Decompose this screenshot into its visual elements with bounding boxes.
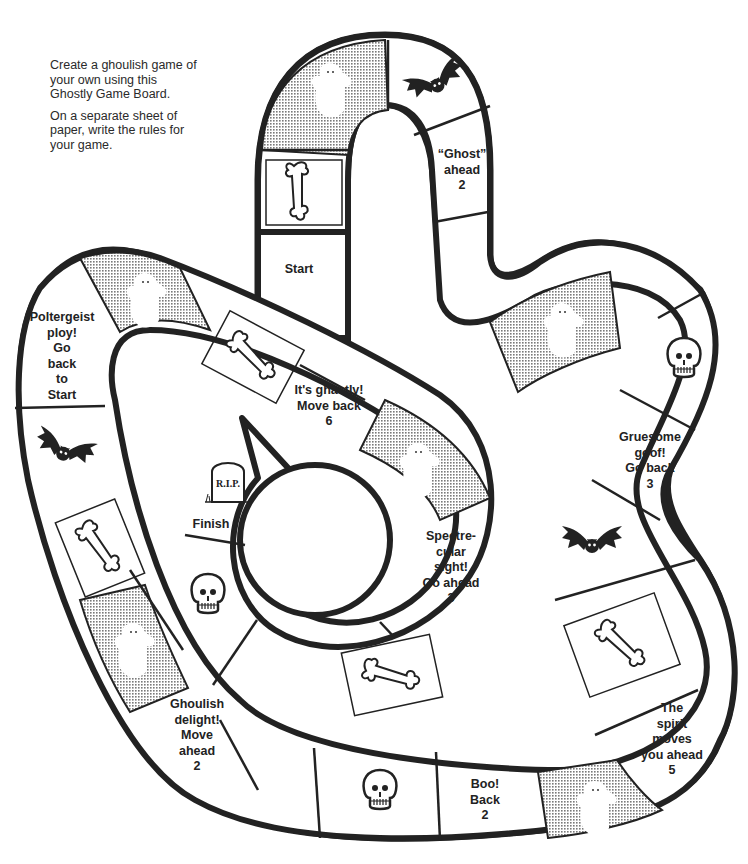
space-its-ghastly: It's ghastly! Move back 6 — [295, 383, 364, 430]
space-label: Spectre- — [423, 529, 480, 545]
space-label: Move — [170, 728, 224, 744]
space-label: 5 — [641, 763, 703, 779]
space-label: back — [30, 356, 95, 372]
space-label: 6 — [295, 414, 364, 430]
space-label: you ahead — [641, 748, 703, 764]
space-label: ahead — [438, 162, 487, 178]
space-label: Gruesome — [619, 430, 681, 446]
space-boo-back: Boo! Back 2 — [470, 777, 500, 824]
space-label: Poltergeist — [30, 310, 95, 326]
space-label: The — [641, 701, 703, 717]
space-label: sight! — [423, 560, 480, 576]
space-label: ahead — [170, 744, 224, 760]
space-poltergeist-ploy: Poltergeist ploy! Go back to Start — [30, 310, 95, 403]
space-label: cular — [423, 545, 480, 561]
space-s12-bones — [564, 593, 680, 697]
space-label: 2 — [170, 759, 224, 775]
space-label: ploy! — [30, 325, 95, 341]
bones-icon — [593, 617, 649, 673]
space-label: Start — [30, 387, 95, 403]
space-label: 2 — [438, 178, 487, 194]
space-label: Go back — [619, 461, 681, 477]
center-hole — [240, 465, 390, 615]
space-ghoulish-delight: Ghoulish delight! Move ahead 2 — [170, 697, 224, 775]
space-label: Finish — [193, 517, 230, 533]
space-label: 3 — [423, 591, 480, 607]
space-label: 3 — [619, 477, 681, 493]
space-label: moves — [641, 732, 703, 748]
space-label: 2 — [470, 808, 500, 824]
space-label: spirit — [641, 717, 703, 733]
tombstone-icon: R.I.P. — [205, 463, 252, 502]
space-label: Go ahead — [423, 576, 480, 592]
bones-icon — [360, 656, 421, 695]
space-label: Move back — [295, 398, 364, 414]
space-label: goof! — [619, 446, 681, 462]
bat-icon — [562, 526, 622, 553]
space-label: “Ghost” — [438, 147, 487, 163]
space-label: to — [30, 372, 95, 388]
space-ghost-ahead: “Ghost” ahead 2 — [438, 147, 487, 194]
space-label: Go — [30, 341, 95, 357]
svg-text:R.I.P.: R.I.P. — [216, 478, 240, 489]
space-label: It's ghastly! — [295, 383, 364, 399]
space-start: Start — [285, 262, 313, 278]
space-spirit-moves: The spirit moves you ahead 5 — [641, 701, 703, 779]
space-label: Back — [470, 792, 500, 808]
space-spectre-cular: Spectre- cular sight! Go ahead 3 — [423, 529, 480, 607]
space-gruesome-goof: Gruesome goof! Go back 3 — [619, 430, 681, 492]
space-finish: Finish — [193, 517, 230, 533]
skull-icon — [192, 574, 225, 613]
space-label: Start — [285, 262, 313, 278]
space-label: delight! — [170, 713, 224, 729]
space-label: Ghoulish — [170, 697, 224, 713]
space-label: Boo! — [470, 777, 500, 793]
